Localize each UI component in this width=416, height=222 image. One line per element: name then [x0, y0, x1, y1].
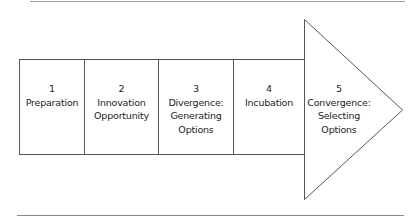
step-number: 5: [304, 82, 374, 96]
step-number: 4: [233, 82, 305, 96]
step-number: 2: [84, 82, 159, 96]
step-label-1: 1 Preparation: [19, 82, 85, 109]
step-label-2: 2 Innovation Opportunity: [84, 82, 159, 123]
step-title: Incubation: [233, 96, 305, 110]
step-title: Opportunity: [84, 109, 159, 123]
bottom-rule: [17, 215, 404, 216]
step-title: Generating: [158, 109, 234, 123]
step-title: Selecting: [304, 109, 374, 123]
step-title: Innovation: [84, 96, 159, 110]
step-title: Options: [304, 123, 374, 137]
step-label-3: 3 Divergence: Generating Options: [158, 82, 234, 136]
step-title: Options: [158, 123, 234, 137]
step-number: 1: [19, 82, 85, 96]
step-title: Convergence:: [304, 96, 374, 110]
step-number: 3: [158, 82, 234, 96]
step-title: Divergence:: [158, 96, 234, 110]
step-label-5: 5 Convergence: Selecting Options: [304, 82, 374, 136]
step-label-4: 4 Incubation: [233, 82, 305, 109]
step-title: Preparation: [19, 96, 85, 110]
